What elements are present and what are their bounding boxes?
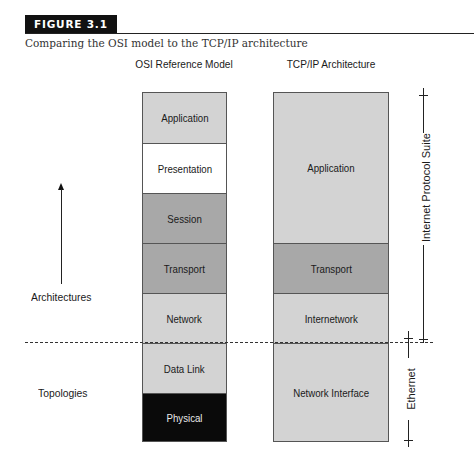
tcpip-stack: Application Transport Internetwork Netwo…	[273, 92, 389, 442]
osi-layer-transport: Transport	[143, 243, 226, 293]
osi-layer-application: Application	[143, 93, 226, 143]
osi-layer-presentation: Presentation	[143, 143, 226, 193]
ethernet-bracket-top-tick	[404, 338, 413, 339]
ethernet-bracket-bottom-tick	[404, 440, 413, 441]
internet-protocol-suite-label: Internet Protocol Suite	[420, 133, 432, 245]
ips-bracket-top-tick	[419, 95, 428, 96]
ethernet-label: Ethernet	[405, 358, 417, 420]
osi-column-title: OSI Reference Model	[128, 58, 241, 70]
tcpip-layer-network-interface: Network Interface	[274, 343, 388, 441]
figure-label: FIGURE 3.1	[25, 15, 117, 34]
tcpip-column-title: TCP/IP Architecture	[270, 58, 391, 70]
figure-caption: Comparing the OSI model to the TCP/IP ar…	[25, 37, 308, 49]
tcpip-layer-internetwork: Internetwork	[274, 293, 388, 343]
figure-header-rule	[25, 33, 474, 34]
osi-layer-network: Network	[143, 293, 226, 343]
architecture-topology-divider	[25, 342, 433, 343]
osi-stack: Application Presentation Session Transpo…	[142, 92, 227, 442]
ips-bracket-bottom-tick	[419, 339, 428, 340]
osi-layer-physical: Physical	[143, 393, 226, 441]
architectures-arrow-shaft	[61, 189, 62, 284]
tcpip-layer-application: Application	[274, 93, 388, 243]
osi-layer-data-link: Data Link	[143, 343, 226, 393]
tcpip-layer-transport: Transport	[274, 243, 388, 293]
topologies-label: Topologies	[38, 387, 87, 399]
architectures-label: Architectures	[31, 291, 91, 303]
osi-layer-session: Session	[143, 193, 226, 243]
